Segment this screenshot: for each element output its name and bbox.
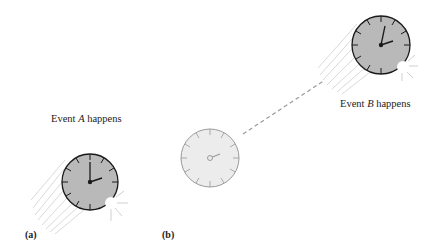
event-b-label: Event B happens bbox=[340, 98, 411, 109]
event-a-prefix: Event bbox=[51, 113, 78, 124]
event-b-suffix: happens bbox=[374, 98, 411, 109]
panel-a-label: (a) bbox=[25, 229, 37, 240]
panel-b-label: (b) bbox=[162, 229, 174, 240]
worldline-dash bbox=[243, 80, 325, 134]
event-a-suffix: happens bbox=[85, 113, 122, 124]
clock-a bbox=[62, 154, 128, 221]
clock-b-rest bbox=[181, 129, 239, 187]
clock-b-moving bbox=[352, 16, 418, 81]
event-a-label: Event A happens bbox=[51, 113, 122, 124]
event-b-prefix: Event bbox=[340, 98, 367, 109]
